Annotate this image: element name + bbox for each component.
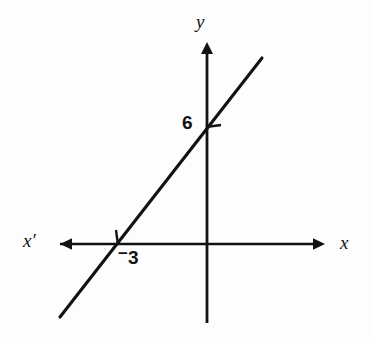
x-axis-right-arrowhead <box>313 238 325 250</box>
x-intercept-label: −3 <box>118 248 139 267</box>
y-axis-label: y <box>196 12 204 31</box>
x-prime-axis-label: x′ <box>23 231 36 250</box>
x-intercept-minus-sign: − <box>118 245 128 262</box>
y-intercept-label: 6 <box>182 113 193 132</box>
x-axis-group <box>60 238 325 250</box>
x-axis-left-arrowhead <box>60 238 72 250</box>
x-axis-label: x <box>340 233 348 252</box>
plotted-line <box>60 58 262 317</box>
y-axis-top-arrowhead <box>201 42 213 54</box>
coordinate-plane-svg <box>0 0 372 342</box>
y-axis-group <box>201 42 213 323</box>
graph-figure: y x x′ 6 −3 <box>0 0 372 342</box>
x-intercept-digits: 3 <box>128 247 139 268</box>
